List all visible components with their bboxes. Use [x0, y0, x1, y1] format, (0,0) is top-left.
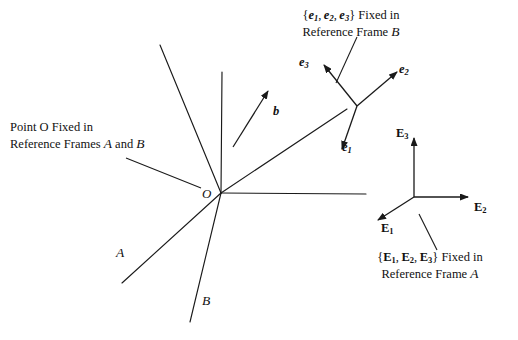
E1-arrow [378, 197, 414, 220]
E-triad-group [378, 138, 468, 220]
vector-b-arrow [233, 91, 268, 147]
E-basis-E1: E1 [383, 250, 396, 264]
E-basis-caption: {E1, E2, E3} Fixed in Reference Frame A [345, 250, 515, 283]
point-o-caption-conjunction: and [112, 137, 136, 151]
ray-horizontal-right [221, 193, 366, 194]
e3-label: e3 [299, 55, 309, 71]
vector-b-label: b [273, 104, 279, 120]
e1-label: e1 [342, 140, 352, 156]
e3-arrow [324, 65, 357, 106]
e-basis-caption: {e1, e2, e3} Fixed in Reference Frame B [266, 8, 436, 41]
E-basis-E3: E3 [420, 250, 433, 264]
frame-b-axis-label: B [202, 293, 210, 310]
point-o-caption: Point O Fixed in Reference Frames A and … [10, 120, 145, 153]
leader-lines-group [126, 37, 437, 250]
frame-a-letter: A [104, 136, 112, 151]
point-o-caption-prefix: Reference Frames [10, 137, 104, 151]
e-basis-e2: e2 [324, 8, 334, 22]
E-basis-leader-line [419, 214, 437, 250]
e-triad-group [324, 65, 397, 149]
point-o-caption-line1: Point O Fixed in [10, 120, 145, 136]
point-o-leader-line [126, 158, 201, 188]
origin-rays-group [122, 45, 366, 322]
origin-label: O [202, 186, 211, 202]
point-o-caption-line2: Reference Frames A and B [10, 136, 145, 153]
e2-label: e2 [399, 62, 409, 78]
E-basis-caption-line1: {E1, E2, E3} Fixed in [345, 250, 515, 266]
E2-label: E2 [474, 200, 487, 216]
e-basis-leader-line [336, 37, 357, 83]
frame-b-letter: B [136, 136, 144, 151]
ray-upper-left-diagonal [160, 45, 221, 193]
diagram-vector-graphics [0, 0, 518, 340]
E3-label: E3 [396, 126, 409, 142]
ray-frame-a-axis [122, 193, 221, 283]
E-basis-E2: E2 [401, 250, 414, 264]
ray-upper-right-long-diagonal [221, 109, 347, 193]
frame-a-axis-label: A [116, 245, 124, 262]
e2-arrow [357, 72, 397, 106]
E-basis-caption-line2: Reference Frame A [345, 266, 515, 283]
ray-vertical-up [221, 72, 222, 193]
e-basis-frame-letter: B [391, 24, 399, 39]
e-basis-caption-line1: {e1, e2, e3} Fixed in [266, 8, 436, 24]
figure-canvas: Point O Fixed in Reference Frames A and … [0, 0, 518, 340]
e-basis-e3: e3 [339, 8, 349, 22]
e-basis-caption-line2: Reference Frame B [266, 24, 436, 41]
E-basis-frame-letter: A [470, 266, 478, 281]
E1-label: E1 [381, 221, 394, 237]
e-basis-e1: e1 [308, 8, 318, 22]
